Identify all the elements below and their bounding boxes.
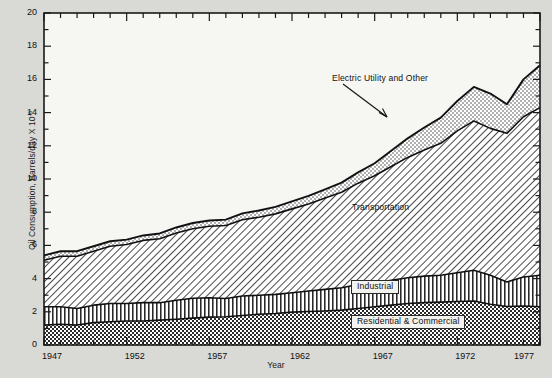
series-label-transportation: Transportation xyxy=(352,202,409,212)
series-label-residential: Residential & Commercial xyxy=(351,315,465,329)
series-label-electric-utility: Electric Utility and Other xyxy=(332,73,428,83)
series-label-industrial: Industrial xyxy=(351,280,399,294)
oil-consumption-area-chart: Oil Consumption, Barrels/day X 10-6 Year… xyxy=(0,0,552,378)
plot-area xyxy=(0,0,552,378)
